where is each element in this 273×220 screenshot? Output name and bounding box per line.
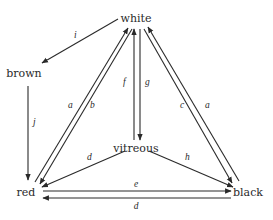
edge-i-arrow (42, 19, 118, 63)
node-white: white (121, 12, 152, 25)
edge-label-g: g (145, 77, 150, 87)
edge-a-right-arrow (148, 27, 239, 181)
node-black: black (233, 186, 263, 199)
edge-label-h: h (185, 152, 190, 162)
edge-label-j: j (31, 117, 36, 127)
edge-label-f: f (123, 77, 127, 87)
edge-label-a-left: a (68, 100, 73, 110)
edge-h-arrow (149, 151, 233, 187)
edge-label-b: b (90, 100, 95, 110)
edge-label-a-right: a (205, 100, 210, 110)
edge-a-left-arrow (35, 28, 128, 182)
edge-label-d-bottom: d (134, 201, 139, 211)
node-brown: brown (6, 67, 41, 80)
edge-label-e: e (134, 179, 138, 189)
edge-label-d-diag: d (87, 152, 92, 162)
state-diagram: white brown vitreous red black i j a b f… (0, 0, 273, 220)
node-red: red (17, 186, 36, 199)
edge-d-diag-arrow (42, 151, 125, 187)
edge-b-arrow (40, 29, 132, 184)
edge-label-c: c (180, 100, 185, 110)
edge-label-i: i (74, 30, 77, 40)
